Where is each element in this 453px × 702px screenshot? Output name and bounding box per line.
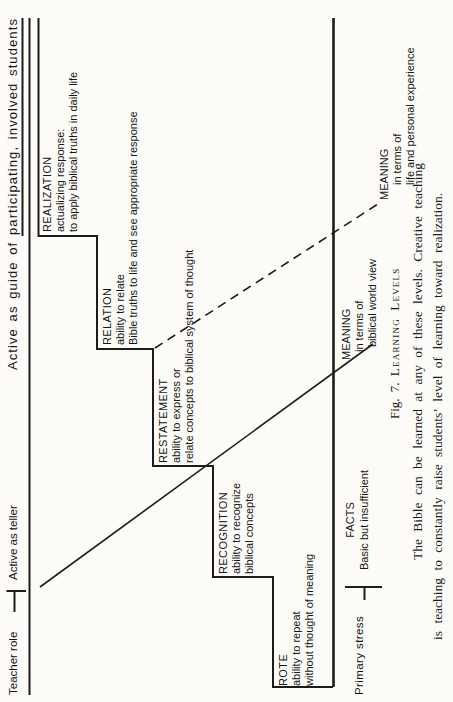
scanned-book-page: Teacher role Active as teller Active as … [0,0,453,702]
stress-facts-desc: Basic but insufficient [358,468,372,572]
primary-stress-tick [345,587,382,600]
step-rote-desc2: without thought of meaning [303,554,316,686]
meaning-biblical-line2: biblical world view [366,259,379,347]
body-text-line1: The Bible can be learned at any of these… [410,163,426,560]
step-recognition-name: RECOGNITION [217,483,230,574]
step-rote-name: ROTE [277,554,290,686]
step-recognition: RECOGNITION ability to recognize biblica… [217,483,256,574]
step-restatement-desc1: ability to express or [170,250,183,463]
primary-stress-label: Primary stress [352,616,366,695]
step-relation: RELATION ability to relate Bible truths … [101,111,140,345]
meaning-biblical-name: MEANING [340,259,353,360]
meaning-life-line1: in terms of [391,47,404,185]
step-restatement-desc2: relate concepts to biblical system of th… [183,250,196,463]
stress-facts-name: FACTS [344,468,358,572]
step-realization: REALIZATION actualizing response: to app… [41,72,80,232]
step-rote-desc1: ability to repeat [290,554,303,686]
step-rote: ROTE ability to repeat without thought o… [277,554,316,686]
teacher-role-right-label: Active as guide of participating, involv… [5,18,20,370]
step-relation-name: RELATION [101,111,114,345]
teacher-role-left-label: Active as teller [6,505,20,580]
step-relation-desc2: Bible truths to life and see appropriate… [127,111,140,345]
step-restatement-name: RESTATEMENT [157,250,170,463]
figure-caption-title: Learning Levels [387,268,402,377]
step-relation-desc1: ability to relate [114,111,127,345]
figure-caption-number: Fig. 7. [387,382,402,419]
step-realization-desc2: to apply biblical truths in daily life [67,72,80,232]
teacher-role-tick [7,591,27,612]
teacher-role-diagonal-line [40,344,373,587]
step-recognition-desc1: ability to recognize [230,483,243,574]
meaning-biblical-line1: in terms of [353,259,366,352]
step-restatement: RESTATEMENT ability to express or relate… [157,250,196,463]
meaning-life-name: MEANING [378,47,391,200]
learning-levels-figure: Teacher role Active as teller Active as … [0,0,453,702]
stress-level-facts: FACTS Basic but insufficient [344,468,371,572]
body-text-line2: is teaching to constantly raise students… [430,193,446,640]
figure-caption: Fig. 7. Learning Levels [387,268,402,419]
step-recognition-desc2: biblical concepts [243,483,256,574]
teacher-role-label: Teacher role [6,632,20,695]
step-realization-name: REALIZATION [41,72,54,232]
stress-level-meaning-biblical: MEANING in terms of biblical world view [340,259,379,360]
step-realization-desc1: actualizing response: [54,72,67,232]
